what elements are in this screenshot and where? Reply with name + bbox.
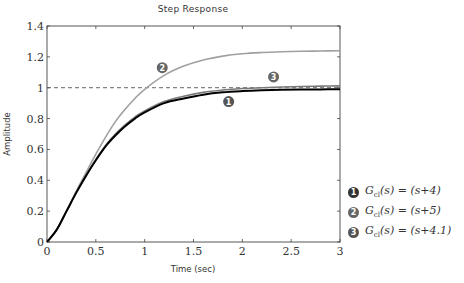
chart-title: Step Response (158, 4, 229, 14)
y-tick-label: 1 (37, 82, 44, 95)
legend-item-2: 2Gcl(s) = (s+5) (348, 202, 464, 222)
x-tick-label: 2 (239, 245, 246, 258)
y-tick-label: 0.8 (27, 113, 45, 126)
marker-icon: 1 (348, 187, 359, 198)
y-tick-label: 0.2 (27, 205, 45, 218)
y-tick-label: 0.4 (27, 174, 45, 187)
curve-1 (47, 89, 340, 242)
x-tick-label: 3 (337, 245, 344, 258)
legend-equation: Gcl(s) = (s+4.1) (365, 224, 451, 239)
response-curves (47, 51, 340, 242)
y-tick-label: 1.2 (27, 51, 45, 64)
x-axis-label: Time (sec) (170, 264, 215, 274)
axis-ticks: 00.511.522.5300.20.40.60.811.21.4 (27, 20, 344, 258)
svg-text:1: 1 (226, 98, 232, 107)
svg-text:2: 2 (159, 64, 165, 73)
x-tick-label: 0 (44, 245, 51, 258)
legend-equation: Gcl(s) = (s+4) (365, 184, 441, 199)
legend: 1Gcl(s) = (s+4)2Gcl(s) = (s+5)3Gcl(s) = … (348, 182, 464, 242)
marker-icon: 3 (348, 227, 359, 238)
legend-equation: Gcl(s) = (s+5) (365, 204, 441, 219)
marker-icon: 2 (348, 207, 359, 218)
svg-text:3: 3 (271, 73, 277, 82)
y-tick-label: 0 (37, 236, 44, 249)
x-tick-label: 1 (141, 245, 148, 258)
y-tick-label: 0.6 (27, 143, 45, 156)
legend-item-1: 1Gcl(s) = (s+4) (348, 182, 464, 202)
x-tick-label: 1.5 (185, 245, 203, 258)
legend-item-3: 3Gcl(s) = (s+4.1) (348, 222, 464, 242)
x-tick-label: 2.5 (282, 245, 300, 258)
y-tick-label: 1.4 (27, 20, 45, 33)
curve-2 (47, 51, 340, 242)
x-tick-label: 0.5 (87, 245, 105, 258)
plot-area (47, 26, 340, 242)
y-axis-label: Amplitude (2, 112, 12, 156)
